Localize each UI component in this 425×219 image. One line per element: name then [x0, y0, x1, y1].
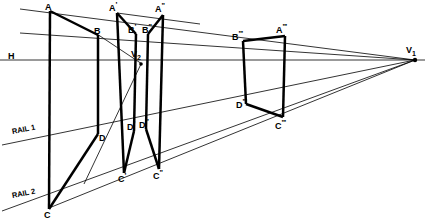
guide-line-top-to-v1 — [20, 9, 415, 60]
horizon-label-H: H — [8, 52, 15, 61]
point-label-B-triple-prime: B''' — [232, 30, 243, 42]
edge-dp-cp — [124, 131, 134, 173]
point-label-D-prime: D' — [127, 120, 135, 132]
point-label-D: D — [99, 131, 106, 143]
point-label-A: A — [45, 0, 52, 12]
vanishing-point-label-v1: V1 — [406, 46, 416, 57]
point-label-C-prime: C' — [118, 172, 126, 184]
technical-drawing-svg — [0, 0, 425, 219]
vanishing-point-markers — [139, 58, 417, 66]
point-label-A-prime: A' — [109, 1, 117, 13]
point-label-C-double-prime: C'' — [153, 169, 162, 181]
edge-bppp-dppp — [243, 41, 246, 104]
object-edges-group — [49, 11, 285, 209]
point-label-C: C — [44, 208, 51, 219]
v2-dot — [139, 62, 143, 66]
guide-line-second-to-v1 — [20, 33, 415, 60]
edge-app-cpp — [159, 15, 163, 169]
rail-1-line — [2, 60, 415, 145]
edge-dpp-cpp — [146, 129, 159, 169]
point-label-A-double-prime: A'' — [155, 2, 164, 14]
edge-a-b — [50, 11, 98, 35]
point-label-D-triple-prime: D''' — [236, 98, 247, 110]
point-label-A-triple-prime: A''' — [276, 23, 287, 35]
point-label-B-double-prime: B'' — [142, 23, 151, 35]
vanishing-point-label-v2: V2 — [131, 50, 141, 61]
point-label-B: B — [94, 24, 101, 36]
edge-ap-cp — [117, 13, 124, 173]
v1-dot — [413, 58, 417, 62]
point-label-B-prime: B' — [128, 23, 136, 35]
perspective-drawing-canvas: A B A' B' B'' A'' B''' A''' C D C' D' D'… — [0, 0, 425, 219]
point-label-D-double-prime: D'' — [139, 118, 148, 130]
construction-lines-group — [0, 9, 425, 211]
point-label-C-triple-prime: C''' — [275, 119, 286, 131]
edge-appp-cppp — [283, 36, 285, 117]
edge-a-c — [49, 11, 50, 209]
